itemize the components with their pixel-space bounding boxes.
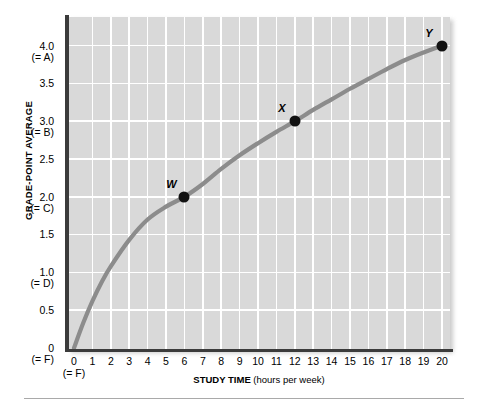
x-tick-value: 16 xyxy=(363,355,375,367)
y-tick-grade: (= C) xyxy=(0,203,54,214)
x-tick-value: 3 xyxy=(126,355,132,367)
y-tick-value: 0.5 xyxy=(0,305,54,316)
x-tick-value: 2 xyxy=(108,355,114,367)
y-tick-label: 4.0(= A) xyxy=(0,41,62,64)
x-tick-value: 17 xyxy=(381,355,393,367)
x-tick-value: 12 xyxy=(289,355,301,367)
curve-svg xyxy=(68,17,450,350)
x-tick-label: 4 xyxy=(145,356,151,368)
x-tick-label: 12 xyxy=(289,356,301,368)
x-tick-label: 1 xyxy=(89,356,95,368)
y-tick-grade: (= B) xyxy=(0,127,54,138)
data-point-label-w: W xyxy=(166,178,176,190)
x-tick-label: 20 xyxy=(436,356,448,368)
x-tick-label: 16 xyxy=(363,356,375,368)
x-tick-value: 9 xyxy=(237,355,243,367)
x-axis-title-units: (hours per week) xyxy=(253,374,324,385)
y-axis-tick-labels: 0(= F)0.51.0(= D)1.52.0(= C)2.53.0(= B)3… xyxy=(0,0,62,411)
x-tick-value: 20 xyxy=(436,355,448,367)
y-tick-label: 2.5 xyxy=(0,154,62,165)
y-tick-label: 0.5 xyxy=(0,305,62,316)
x-axis-title: STUDY TIME (hours per week) xyxy=(68,374,450,385)
data-point-x xyxy=(289,116,300,127)
data-point-label-x: X xyxy=(278,102,285,114)
x-tick-value: 0 xyxy=(71,355,77,367)
x-tick-label: 18 xyxy=(399,356,411,368)
x-tick-value: 6 xyxy=(181,355,187,367)
x-tick-value: 10 xyxy=(252,355,264,367)
y-tick-label: 1.0(= D) xyxy=(0,267,62,290)
y-axis-line xyxy=(65,15,69,352)
data-point-label-y: Y xyxy=(425,27,432,39)
y-tick-value: 3.5 xyxy=(0,78,54,89)
x-tick-label: 14 xyxy=(326,356,338,368)
y-tick-grade: (= D) xyxy=(0,278,54,289)
x-tick-label: 6 xyxy=(181,356,187,368)
x-tick-label: 8 xyxy=(218,356,224,368)
x-tick-label: 11 xyxy=(271,356,282,368)
x-tick-label: 17 xyxy=(381,356,393,368)
y-tick-label: 3.5 xyxy=(0,78,62,89)
x-tick-label: 3 xyxy=(126,356,132,368)
data-point-y xyxy=(437,40,448,51)
y-tick-label: 3.0(= B) xyxy=(0,116,62,139)
y-tick-label: 2.0(= C) xyxy=(0,192,62,215)
x-tick-value: 8 xyxy=(218,355,224,367)
x-tick-label: 10 xyxy=(252,356,264,368)
x-tick-value: 18 xyxy=(399,355,411,367)
chart-figure: GRADE-POINT AVERAGE 0(= F)0.51.0(= D)1.5… xyxy=(0,0,488,411)
x-tick-value: 19 xyxy=(418,355,430,367)
y-tick-value: 2.5 xyxy=(0,154,54,165)
x-tick-label: 2 xyxy=(108,356,114,368)
x-axis-title-main: STUDY TIME xyxy=(193,374,250,385)
y-tick-value: 1.5 xyxy=(0,229,54,240)
x-tick-label: 7 xyxy=(200,356,206,368)
x-tick-label: 15 xyxy=(344,356,356,368)
x-tick-value: 11 xyxy=(271,355,282,367)
x-tick-label: 5 xyxy=(163,356,169,368)
x-tick-label: 19 xyxy=(418,356,430,368)
x-tick-value: 1 xyxy=(89,355,95,367)
x-tick-value: 4 xyxy=(145,355,151,367)
y-tick-grade: (= A) xyxy=(0,52,54,63)
bottom-divider xyxy=(24,398,464,399)
x-tick-value: 5 xyxy=(163,355,169,367)
x-tick-value: 13 xyxy=(307,355,319,367)
x-tick-label: 9 xyxy=(237,356,243,368)
plot-area: WXY xyxy=(68,17,450,350)
x-tick-value: 15 xyxy=(344,355,356,367)
data-point-w xyxy=(179,191,190,202)
data-curve xyxy=(74,46,442,348)
x-tick-label: 13 xyxy=(307,356,319,368)
x-tick-value: 14 xyxy=(326,355,338,367)
x-tick-value: 7 xyxy=(200,355,206,367)
x-axis-line xyxy=(65,349,453,353)
y-tick-label: 1.5 xyxy=(0,229,62,240)
